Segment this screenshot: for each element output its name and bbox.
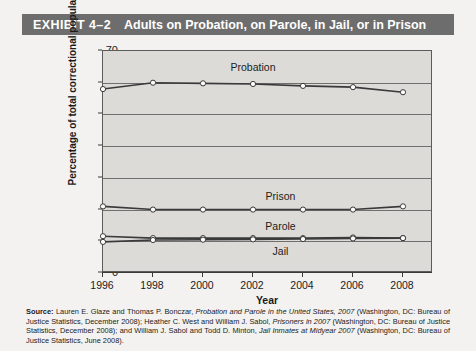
x-tick-mark: [102, 272, 103, 277]
data-point-marker: [150, 207, 155, 212]
data-point-marker: [400, 236, 405, 241]
data-point-marker: [150, 237, 155, 242]
data-point-marker: [150, 80, 155, 85]
data-point-marker: [400, 90, 405, 95]
series-label-jail: Jail: [273, 245, 289, 257]
data-point-marker: [400, 204, 405, 209]
x-tick-mark: [252, 272, 253, 277]
data-point-marker: [200, 207, 205, 212]
data-point-marker: [250, 207, 255, 212]
exhibit-figure: EXHIBIT 4–2 Adults on Probation, on Paro…: [0, 0, 476, 351]
data-point-marker: [300, 83, 305, 88]
page-title: Adults on Probation, on Parole, in Jail,…: [124, 18, 426, 32]
data-point-marker: [100, 204, 105, 209]
x-axis-label: Year: [102, 294, 432, 306]
source-label: Source:: [26, 307, 54, 316]
source-text: Lauren E. Glaze and Thomas P. Bonczar, P…: [26, 307, 450, 345]
data-point-marker: [100, 239, 105, 244]
source-note: Source: Lauren E. Glaze and Thomas P. Bo…: [26, 307, 450, 345]
x-tick-label: 1996: [90, 279, 113, 291]
data-point-marker: [350, 207, 355, 212]
y-axis-label: Percentage of total correctional populat…: [67, 6, 78, 186]
data-point-marker: [250, 81, 255, 86]
x-tick-mark: [352, 272, 353, 277]
x-tick-label: 2006: [340, 279, 363, 291]
data-series-layer: [103, 51, 433, 273]
x-tick-mark: [302, 272, 303, 277]
chart-container: Percentage of total correctional populat…: [22, 40, 454, 295]
data-point-marker: [350, 85, 355, 90]
x-tick-label: 2004: [290, 279, 313, 291]
data-point-marker: [300, 236, 305, 241]
series-label-parole: Parole: [265, 220, 295, 232]
data-point-marker: [200, 237, 205, 242]
data-point-marker: [100, 234, 105, 239]
data-point-marker: [300, 207, 305, 212]
x-tick-label: 1998: [140, 279, 163, 291]
data-point-marker: [100, 86, 105, 91]
x-tick-label: 2008: [390, 279, 413, 291]
x-tick-mark: [402, 272, 403, 277]
x-tick-mark: [152, 272, 153, 277]
data-point-marker: [250, 237, 255, 242]
exhibit-title-bar: EXHIBIT 4–2 Adults on Probation, on Paro…: [22, 14, 454, 35]
x-tick-label: 2000: [190, 279, 213, 291]
data-point-marker: [350, 236, 355, 241]
x-tick-mark: [202, 272, 203, 277]
data-point-marker: [200, 81, 205, 86]
x-tick-label: 2002: [240, 279, 263, 291]
plot-area: ProbationPrisonParoleJail: [102, 50, 432, 272]
series-label-probation: Probation: [231, 61, 276, 73]
series-label-prison: Prison: [266, 190, 296, 202]
